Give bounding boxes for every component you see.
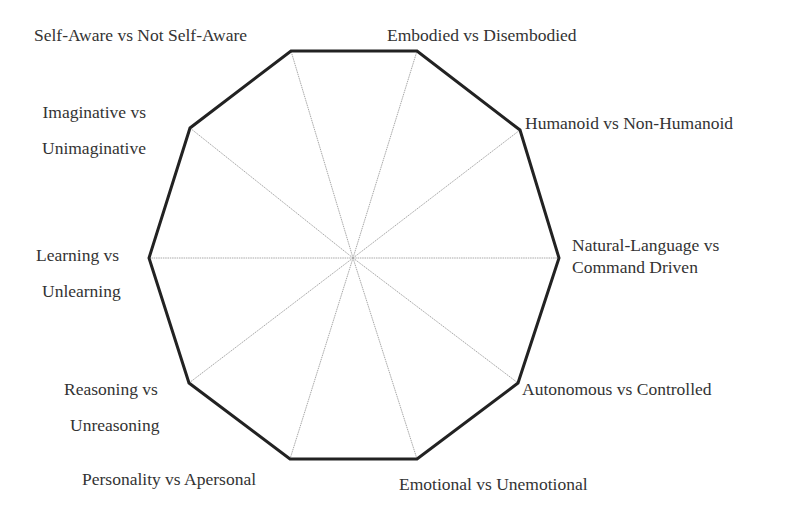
axis-label-personality: Personality vs Apersonal [82, 468, 256, 490]
axis-label-natural-line1: Natural-Language vs [572, 234, 719, 256]
axis-label-learning: Learning vs Unlearning [36, 244, 121, 302]
axis-label-reasoning-line2: Unreasoning [64, 414, 159, 436]
axis-label-imaginative: Imaginative vs Unimaginative [42, 101, 146, 159]
radar-chart: Self-Aware vs Not Self-Aware Embodied vs… [0, 0, 809, 519]
axis-label-embodied: Embodied vs Disembodied [387, 24, 577, 46]
axis-label-humanoid: Humanoid vs Non-Humanoid [525, 112, 733, 134]
axis-label-natural-language: Natural-Language vs Command Driven [572, 234, 719, 278]
axis-label-learning-line1: Learning vs [36, 244, 121, 266]
axis-label-autonomous: Autonomous vs Controlled [522, 378, 712, 400]
axis-label-imaginative-line1: Imaginative vs [42, 101, 146, 123]
axis-label-imaginative-line2: Unimaginative [42, 137, 146, 159]
axis-label-reasoning-line1: Reasoning vs [64, 378, 159, 400]
axis-label-natural-line2: Command Driven [572, 256, 719, 278]
axis-label-learning-line2: Unlearning [36, 280, 121, 302]
axis-label-reasoning: Reasoning vs Unreasoning [64, 378, 159, 436]
axis-label-self-aware: Self-Aware vs Not Self-Aware [34, 24, 247, 46]
axis-label-emotional: Emotional vs Unemotional [399, 473, 588, 495]
